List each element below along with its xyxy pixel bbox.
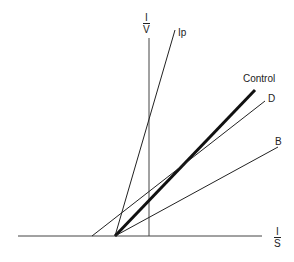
line-b — [115, 147, 278, 236]
plot-lines — [0, 0, 294, 262]
y-axis-label: I V — [143, 12, 150, 35]
label-ip: Ip — [178, 27, 186, 38]
label-b: B — [275, 136, 282, 147]
lineweaver-burk-plot: I V I S Ip Control D B — [0, 0, 294, 262]
x-axis-label: I S — [274, 226, 281, 249]
label-control: Control — [243, 73, 275, 84]
label-d: D — [268, 93, 275, 104]
